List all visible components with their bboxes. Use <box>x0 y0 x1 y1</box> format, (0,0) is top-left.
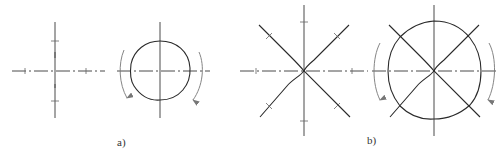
panel-b-circle <box>372 5 497 136</box>
tick-mark <box>266 33 272 39</box>
rotation-arrow-left <box>120 50 127 98</box>
technical-diagram <box>0 0 502 160</box>
rotation-arrow-right <box>193 52 202 100</box>
panel-a-circle <box>117 22 210 118</box>
panel-label-b: b) <box>367 134 376 146</box>
panel-a-cross <box>12 22 105 118</box>
panel-b-star <box>240 5 368 136</box>
tick-mark <box>334 33 340 39</box>
panel-label-a: a) <box>117 136 126 148</box>
